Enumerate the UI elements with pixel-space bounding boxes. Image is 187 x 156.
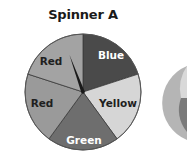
sector-label: Yellow — [98, 97, 137, 109]
partial-spinner-right — [162, 66, 187, 140]
sector-label: Green — [66, 134, 102, 146]
sector-label: Blue — [98, 49, 124, 61]
sector-label: Red — [31, 97, 54, 109]
sector-label: Red — [40, 55, 63, 67]
spinner-a: BlueYellowGreenRedRed — [0, 0, 187, 156]
spinner-hub — [81, 90, 85, 94]
